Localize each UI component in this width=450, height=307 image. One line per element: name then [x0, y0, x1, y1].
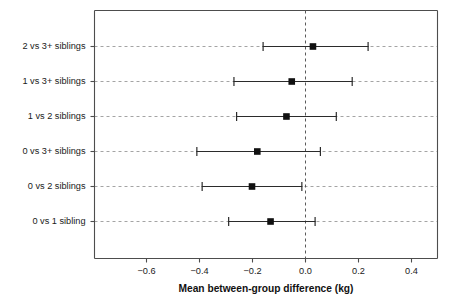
y-axis-category-label: 0 vs 2 siblings — [28, 181, 86, 191]
forest-plot-figure: 2 vs 3+ siblings1 vs 3+ siblings1 vs 2 s… — [0, 0, 450, 307]
point-estimate-marker — [267, 218, 274, 225]
point-estimate-marker — [288, 78, 295, 85]
x-tick-label: 0.2 — [352, 266, 365, 276]
x-tick-label: 0.4 — [405, 266, 418, 276]
point-estimate-marker — [283, 113, 290, 120]
x-tick-label: 0.0 — [299, 266, 312, 276]
y-axis-category-label: 1 vs 3+ siblings — [22, 76, 85, 86]
x-axis-title: Mean between-group difference (kg) — [179, 283, 354, 294]
y-axis-category-label: 2 vs 3+ siblings — [22, 41, 85, 51]
y-axis-category-label: 0 vs 3+ siblings — [22, 146, 85, 156]
x-tick-label: −0.6 — [137, 266, 155, 276]
point-estimate-marker — [249, 183, 256, 190]
x-tick-label: −0.4 — [190, 266, 208, 276]
point-estimate-marker — [310, 43, 317, 50]
x-tick-label: −0.2 — [243, 266, 261, 276]
forest-plot-canvas: 2 vs 3+ siblings1 vs 3+ siblings1 vs 2 s… — [0, 0, 450, 307]
point-estimate-marker — [254, 148, 261, 155]
y-axis-category-label: 0 vs 1 sibling — [32, 216, 85, 226]
y-axis-category-label: 1 vs 2 siblings — [28, 111, 86, 121]
